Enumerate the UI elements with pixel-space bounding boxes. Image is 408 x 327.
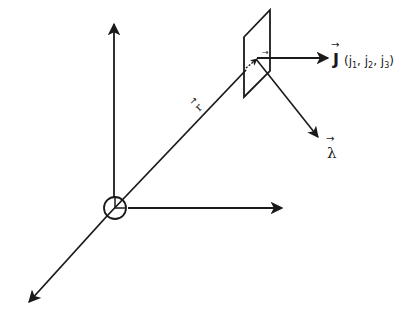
lambda-arrow xyxy=(256,59,318,137)
current-components: (j1, j2, j3) xyxy=(344,54,394,70)
position-vector-label: r → xyxy=(187,94,207,114)
direction-vector-label: → λ xyxy=(326,133,337,162)
direction-vector-arrow-glyph: → xyxy=(326,133,334,144)
position-vector-line xyxy=(107,70,246,216)
local-vector-arrow-glyph: → xyxy=(262,48,269,57)
current-density-label: → J (j1, j2, j3) xyxy=(331,39,394,70)
coordinate-diagram: r → → → J (j1, j2, j3) → λ xyxy=(0,0,408,327)
current-density-symbol: J xyxy=(332,50,339,69)
current-density-arrow-glyph: → xyxy=(331,39,339,50)
local-vector-arrow xyxy=(246,59,257,68)
depth-axis xyxy=(29,216,107,302)
direction-vector-symbol: λ xyxy=(327,144,337,162)
